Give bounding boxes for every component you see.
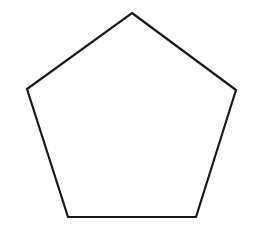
- shape-canvas-svg: [0, 0, 254, 236]
- pentagon-drawing-canvas: [0, 0, 254, 236]
- canvas-background: [0, 0, 254, 236]
